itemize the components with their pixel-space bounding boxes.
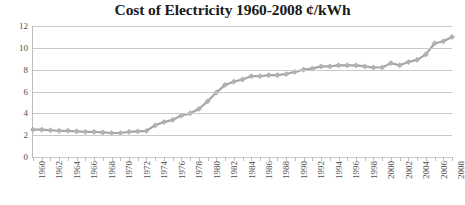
gridline bbox=[33, 135, 452, 136]
gridline bbox=[33, 113, 452, 114]
x-tick-label: 1992 bbox=[316, 161, 326, 179]
y-tick-label: 4 bbox=[6, 109, 28, 118]
x-tick-label: 1974 bbox=[159, 161, 169, 179]
data-point-marker bbox=[257, 74, 262, 79]
data-point-marker bbox=[135, 129, 140, 134]
x-tick-label: 1962 bbox=[54, 161, 64, 179]
data-point-marker bbox=[74, 129, 79, 134]
data-point-marker bbox=[362, 64, 367, 69]
x-tick-label: 1984 bbox=[247, 161, 257, 179]
x-tick-label: 2000 bbox=[386, 161, 396, 179]
data-point-marker bbox=[57, 128, 62, 133]
x-tick-label: 1960 bbox=[37, 161, 47, 179]
chart-title: Cost of Electricity 1960-2008 ¢/kWh bbox=[0, 1, 465, 19]
data-point-marker bbox=[318, 64, 323, 69]
x-tick-label: 1976 bbox=[177, 161, 187, 179]
data-point-marker bbox=[65, 128, 70, 133]
data-point-marker bbox=[327, 64, 332, 69]
y-tick-label: 2 bbox=[6, 131, 28, 140]
x-tick-label: 1996 bbox=[351, 161, 361, 179]
x-tick-label: 1964 bbox=[72, 161, 82, 179]
gridline bbox=[33, 92, 452, 93]
gridline bbox=[33, 48, 452, 49]
data-point-marker bbox=[284, 71, 289, 76]
x-tick-label: 1998 bbox=[369, 161, 379, 179]
gridline bbox=[33, 70, 452, 71]
x-tick-label: 1972 bbox=[142, 161, 152, 179]
x-tick-label: 2006 bbox=[439, 161, 449, 179]
x-tick-label: 2008 bbox=[456, 161, 465, 179]
data-point-marker bbox=[39, 127, 44, 132]
x-tick-label: 1968 bbox=[107, 161, 117, 179]
chart-container: Cost of Electricity 1960-2008 ¢/kWh 0246… bbox=[0, 0, 465, 205]
x-axis-labels: 1960196219641966196819701972197419761978… bbox=[0, 161, 465, 205]
data-point-marker bbox=[266, 73, 271, 78]
x-tick-label: 1978 bbox=[194, 161, 204, 179]
x-tick-label: 1966 bbox=[89, 161, 99, 179]
data-point-marker bbox=[353, 63, 358, 68]
x-tick-label: 1988 bbox=[281, 161, 291, 179]
x-tick-label: 1980 bbox=[212, 161, 222, 179]
y-tick-label: 12 bbox=[6, 22, 28, 31]
data-point-marker bbox=[345, 63, 350, 68]
x-tick-label: 1986 bbox=[264, 161, 274, 179]
x-tick-label: 2004 bbox=[421, 161, 431, 179]
data-point-marker bbox=[83, 129, 88, 134]
x-tick-label: 1994 bbox=[334, 161, 344, 179]
x-tick-label: 2002 bbox=[404, 161, 414, 179]
data-point-marker bbox=[275, 73, 280, 78]
y-tick-label: 10 bbox=[6, 44, 28, 53]
data-point-marker bbox=[336, 63, 341, 68]
x-tick-label: 1970 bbox=[124, 161, 134, 179]
gridline bbox=[33, 26, 452, 27]
y-tick-label: 6 bbox=[6, 88, 28, 97]
x-tick-label: 1982 bbox=[229, 161, 239, 179]
x-tick-label: 1990 bbox=[299, 161, 309, 179]
data-point-marker bbox=[126, 129, 131, 134]
data-point-marker bbox=[48, 128, 53, 133]
y-tick-label: 8 bbox=[6, 66, 28, 75]
data-point-marker bbox=[92, 129, 97, 134]
plot-area bbox=[33, 26, 452, 157]
series-line bbox=[33, 37, 452, 133]
